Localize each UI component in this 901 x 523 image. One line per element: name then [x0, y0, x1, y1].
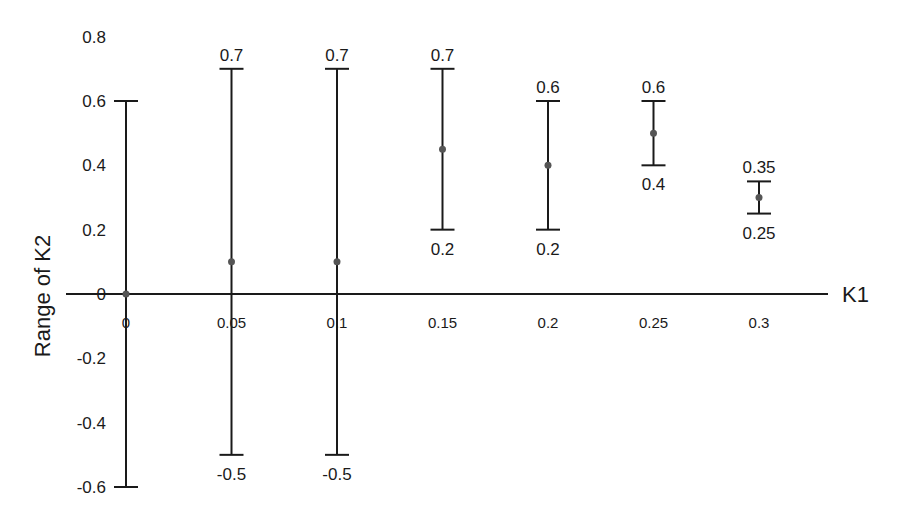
data-point	[650, 130, 657, 137]
lower-bound-label: 0.2	[431, 240, 455, 259]
data-point	[123, 291, 130, 298]
y-tick-label: 0.8	[82, 28, 106, 47]
error-bar-chart: 0.80.60.40.20-0.2-0.4-0.6 00.050.10.150.…	[0, 0, 901, 523]
lower-bound-label: -0.5	[322, 465, 351, 484]
upper-bound-label: 0.6	[642, 78, 666, 97]
y-tick-label: -0.6	[77, 478, 106, 497]
upper-bound-label: 0.7	[325, 46, 349, 65]
x-tick-label: 0.15	[428, 314, 457, 331]
upper-bound-label: 0.35	[742, 158, 775, 177]
x-axis-ticks: 00.050.10.150.20.250.3	[122, 314, 770, 331]
error-bars: 0.7-0.50.7-0.50.70.20.60.20.60.40.350.25	[114, 46, 776, 487]
x-axis-title: K1	[842, 282, 869, 307]
error-bar: 0.7-0.5	[217, 46, 246, 484]
y-tick-label: 0.4	[82, 156, 106, 175]
error-bar: 0.60.4	[642, 78, 666, 194]
y-axis-ticks: 0.80.60.40.20-0.2-0.4-0.6	[77, 28, 106, 497]
error-bar: 0.7-0.5	[322, 46, 351, 484]
upper-bound-label: 0.7	[431, 46, 455, 65]
x-tick-label: 0.25	[639, 314, 668, 331]
data-point	[756, 194, 763, 201]
y-tick-label: -0.2	[77, 349, 106, 368]
upper-bound-label: 0.7	[220, 46, 244, 65]
data-point	[334, 258, 341, 265]
lower-bound-label: -0.5	[217, 465, 246, 484]
y-axis-title: Range of K2	[30, 235, 55, 357]
y-tick-label: -0.4	[77, 414, 106, 433]
data-point	[439, 146, 446, 153]
x-tick-label: 0.2	[538, 314, 559, 331]
lower-bound-label: 0.2	[536, 240, 560, 259]
x-tick-label: 0.3	[749, 314, 770, 331]
lower-bound-label: 0.4	[642, 175, 666, 194]
error-bar: 0.350.25	[742, 158, 775, 242]
error-bar: 0.60.2	[536, 78, 560, 259]
error-bar: 0.70.2	[431, 46, 455, 259]
y-tick-label: 0.2	[82, 221, 106, 240]
data-point	[545, 162, 552, 169]
y-tick-label: 0.6	[82, 92, 106, 111]
data-point	[228, 258, 235, 265]
upper-bound-label: 0.6	[536, 78, 560, 97]
lower-bound-label: 0.25	[742, 224, 775, 243]
